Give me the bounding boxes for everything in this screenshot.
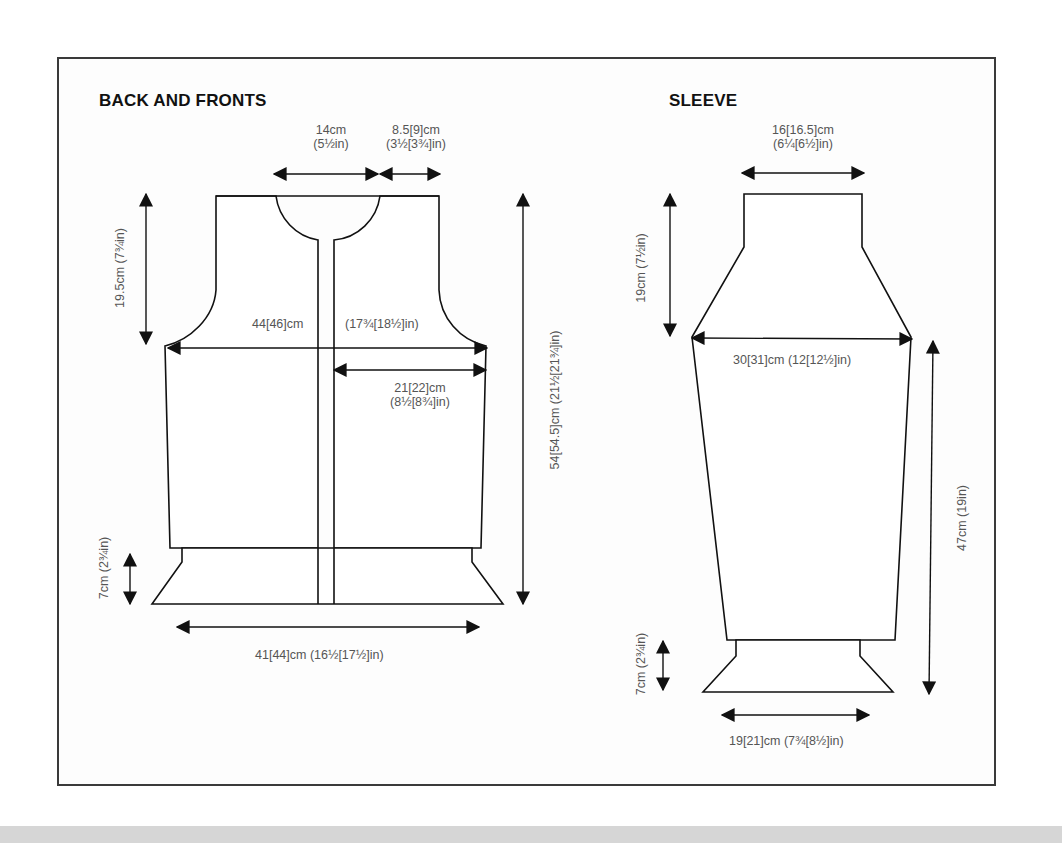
sleeve-cuff [703, 640, 893, 692]
sleeve-upper-width-label: 30[31]cm (12[12½]in) [733, 353, 851, 367]
back-fronts-title: BACK AND FRONTS [99, 91, 267, 111]
neck-width-label: 14cm (5½in) [296, 123, 366, 151]
left-front-panel [165, 196, 318, 548]
rib-depth-label: 7cm (2¾in) [97, 537, 111, 600]
neck-width-cm: 14cm [296, 123, 366, 137]
sleeve-title: SLEEVE [669, 91, 737, 111]
front-width-label: 21[22]cm (8½[8¾]in) [375, 381, 465, 409]
sleeve-body [692, 194, 911, 640]
neck-width-in: (5½in) [296, 137, 366, 151]
right-front-panel [334, 196, 486, 548]
schematic-drawing [0, 0, 1062, 843]
shoulder-width-cm: 8.5[9]cm [376, 123, 456, 137]
hem-width-label: 41[44]cm (16½[17½]in) [255, 648, 384, 662]
sleeve-top-width-label: 16[16.5]cm (6¼[6½]in) [755, 123, 851, 151]
sleeve-top-width-cm: 16[16.5]cm [755, 123, 851, 137]
armhole-depth-label: 19.5cm (7¾in) [113, 228, 127, 308]
shoulder-width-in: (3½[3¾]in) [376, 137, 456, 151]
sleeve-cuff-width-label: 19[21]cm (7¾[8½]in) [729, 734, 844, 748]
front-width-in: (8½[8¾]in) [375, 395, 465, 409]
shoulder-width-label: 8.5[9]cm (3½[3¾]in) [376, 123, 456, 151]
sleeve-cuff-depth-label: 7cm (2¾in) [634, 633, 648, 696]
sleeve-shape [692, 194, 911, 692]
sleeve-top-width-in: (6¼[6½]in) [755, 137, 851, 151]
sleeve-length-label: 47cm (19in) [955, 485, 969, 551]
front-width-cm: 21[22]cm [375, 381, 465, 395]
chest-width-in-label: (17¾[18½]in) [345, 317, 419, 331]
chest-width-cm-label: 44[46]cm [252, 317, 303, 331]
total-length-label: 54[54.5]cm (21½[21¾]in) [548, 331, 562, 470]
sleeve-cap-depth-label: 19cm (7½in) [634, 233, 648, 302]
rib-band [152, 548, 503, 604]
